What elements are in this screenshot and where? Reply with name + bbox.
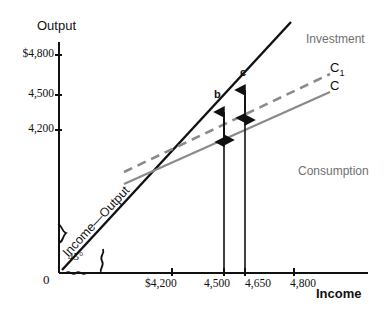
region-label-consumption: Consumption xyxy=(298,164,369,178)
x-tick-label-4200: $4,200 xyxy=(145,277,177,289)
x-tick-label-4500: 4,500 xyxy=(204,277,230,289)
diagram-canvas xyxy=(0,0,392,313)
curve-label-c1-text: C xyxy=(330,60,339,75)
curve-label-c: C xyxy=(330,78,339,93)
region-label-investment: Investment xyxy=(306,32,365,46)
keynesian-cross-diagram: Output Income $4,800 4,500 4,200 $4,200 … xyxy=(0,0,392,313)
y-tick-label-4800: $4,800 xyxy=(4,47,54,59)
axis-lines xyxy=(59,42,368,273)
y-axis-title: Output xyxy=(37,18,76,33)
point-label-c: c xyxy=(240,66,246,78)
curve-label-c1: C1 xyxy=(330,60,344,78)
origin-label: 0 xyxy=(43,272,50,288)
y-tick-label-4500: 4,500 xyxy=(4,87,54,99)
consumption-line-c1 xyxy=(124,74,330,172)
angle-arc-marker xyxy=(101,249,104,273)
x-axis-title: Income xyxy=(316,286,362,301)
point-label-b: b xyxy=(214,88,221,100)
curve-label-c1-subscript: 1 xyxy=(339,68,344,78)
y-tick-label-4200: 4,200 xyxy=(4,122,54,134)
x-tick-label-4800: 4,800 xyxy=(290,277,316,289)
x-tick-label-4650: 4,650 xyxy=(245,277,271,289)
income-output-45-degree-line xyxy=(62,22,291,270)
